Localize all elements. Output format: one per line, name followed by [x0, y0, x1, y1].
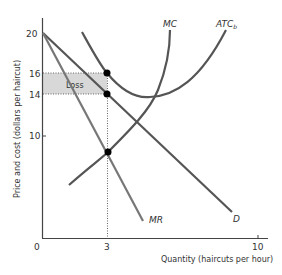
y-tick-label-16: 16 [29, 69, 41, 79]
mr-label: MR [149, 215, 163, 225]
marginal-cost-curve [69, 30, 170, 185]
d-label: D [233, 214, 240, 224]
x-tick-label-10: 10 [252, 242, 264, 252]
y-tick-label-20: 20 [26, 29, 38, 39]
x-tick-label-3: 3 [104, 242, 110, 252]
y-tick-label-14: 14 [29, 90, 41, 100]
marginal-revenue-curve [43, 33, 143, 221]
mc-mr-intersection-point [105, 149, 112, 156]
atc-label: ATCb [215, 19, 237, 30]
y-tick-label-10: 10 [29, 131, 41, 141]
x-tick-label-0: 0 [34, 242, 40, 252]
monopoly-loss-chart: Loss 20 16 14 10 0 3 10 Quantity (haircu… [0, 0, 282, 275]
atc-label-sub: b [233, 23, 237, 30]
atc-point [104, 70, 111, 77]
y-axis-title: Price and cost (dollars per haircut) [13, 60, 22, 198]
atc-label-main: ATC [215, 19, 234, 29]
price-point [104, 91, 111, 98]
mc-label: MC [163, 19, 178, 29]
x-axis-title: Quantity (haircuts per hour) [161, 255, 273, 264]
